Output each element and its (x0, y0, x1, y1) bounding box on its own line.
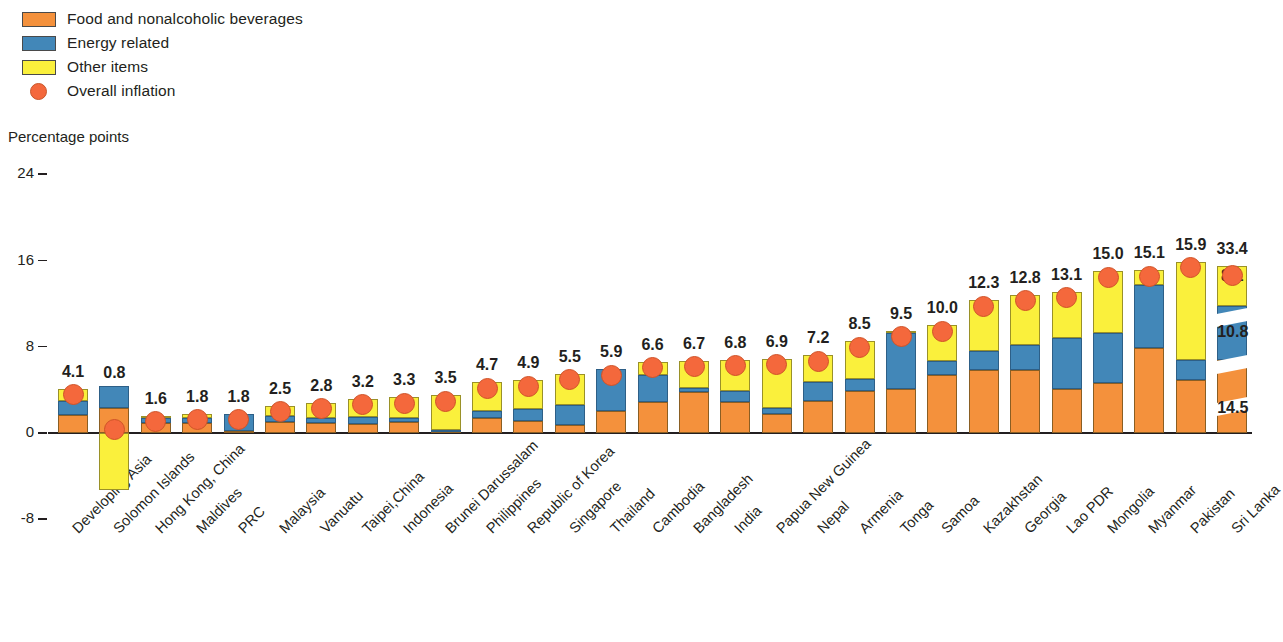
overall-inflation-marker[interactable] (311, 398, 332, 419)
bar-value-label: 33.4 (1204, 240, 1260, 258)
bar-segment-food[interactable] (224, 431, 254, 433)
bar-segment-energy[interactable] (472, 411, 502, 417)
bar-group[interactable]: 15.0 (1093, 0, 1123, 642)
bar-segment-food[interactable] (472, 418, 502, 433)
bar-group[interactable]: 3.5 (431, 0, 461, 642)
bar-group[interactable]: 4.9 (513, 0, 543, 642)
overall-inflation-marker[interactable] (849, 337, 870, 358)
bar-segment-energy[interactable] (348, 417, 378, 425)
overall-inflation-marker[interactable] (187, 409, 208, 430)
bar-segment-food[interactable] (1176, 380, 1206, 433)
bar-segment-food[interactable] (348, 424, 378, 433)
bar-segment-energy[interactable] (1176, 360, 1206, 380)
bar-group[interactable]: 3.3 (389, 0, 419, 642)
bar-segment-food[interactable] (265, 422, 295, 433)
bar-group[interactable]: 15.1 (1134, 0, 1164, 642)
overall-inflation-marker[interactable] (394, 393, 415, 414)
bar-segment-food[interactable] (638, 402, 668, 433)
bar-segment-energy[interactable] (513, 409, 543, 421)
overall-inflation-marker[interactable] (1098, 267, 1119, 288)
y-axis-tick-label: -8 (0, 509, 34, 526)
bar-group[interactable]: 9.5 (886, 0, 916, 642)
bar-group[interactable]: 1.8 (224, 0, 254, 642)
bar-segment-food[interactable] (1134, 348, 1164, 433)
bar-group[interactable]: 5.5 (555, 0, 585, 642)
bar-segment-food[interactable] (306, 423, 336, 433)
bar-group[interactable]: 2.5 (265, 0, 295, 642)
bar-segment-food[interactable] (927, 375, 957, 433)
overall-inflation-marker[interactable] (270, 401, 291, 422)
bar-segment-energy[interactable] (1093, 333, 1123, 384)
overall-inflation-marker[interactable] (518, 376, 539, 397)
y-axis-tick-mark (38, 518, 47, 520)
bar-segment-energy[interactable] (1134, 285, 1164, 348)
bar-group[interactable]: 6.9 (762, 0, 792, 642)
bar-group[interactable]: 4.1 (58, 0, 88, 642)
overall-inflation-marker[interactable] (725, 355, 746, 376)
overall-inflation-marker[interactable] (477, 378, 498, 399)
bar-segment-energy[interactable] (720, 391, 750, 402)
bar-segment-food[interactable] (969, 370, 999, 433)
bar-segment-energy[interactable] (845, 379, 875, 391)
bar-segment-food[interactable] (1052, 389, 1082, 433)
segment-label-food: 14.5 (1217, 399, 1247, 417)
bar-segment-food[interactable] (513, 421, 543, 433)
overall-inflation-marker[interactable] (1222, 265, 1243, 286)
bar-segment-food[interactable] (596, 411, 626, 433)
bar-group[interactable]: 6.7 (679, 0, 709, 642)
bar-segment-food[interactable] (720, 402, 750, 433)
overall-inflation-marker[interactable] (808, 351, 829, 372)
bar-segment-food[interactable] (845, 391, 875, 433)
bar-group[interactable]: 5.9 (596, 0, 626, 642)
bar-segment-energy[interactable] (762, 408, 792, 413)
bar-segment-food[interactable] (679, 392, 709, 433)
bar-segment-food[interactable] (886, 389, 916, 433)
bar-segment-food[interactable] (389, 422, 419, 433)
bar-group[interactable]: 3.2 (348, 0, 378, 642)
overall-inflation-marker[interactable] (932, 321, 953, 342)
bar-segment-food[interactable] (1010, 370, 1040, 433)
bar-group[interactable]: 4.7 (472, 0, 502, 642)
bar-group[interactable]: 2.8 (306, 0, 336, 642)
bar-segment-energy[interactable] (927, 361, 957, 375)
bar-segment-energy[interactable] (679, 388, 709, 392)
bar-segment-food[interactable] (58, 415, 88, 433)
bar-segment-food[interactable] (1093, 383, 1123, 433)
overall-inflation-marker[interactable] (601, 365, 622, 386)
bar-segment-energy[interactable] (638, 375, 668, 402)
overall-inflation-marker[interactable] (891, 326, 912, 347)
overall-inflation-marker[interactable] (228, 409, 249, 430)
bar-group[interactable]: 15.9 (1176, 0, 1206, 642)
overall-inflation-marker[interactable] (104, 419, 125, 440)
bar-segment-energy[interactable] (969, 351, 999, 370)
bar-group[interactable]: 0.8 (99, 0, 129, 642)
bar-group[interactable]: 10.0 (927, 0, 957, 642)
overall-inflation-marker[interactable] (435, 391, 456, 412)
overall-inflation-marker[interactable] (1139, 266, 1160, 287)
bar-group[interactable]: 13.1 (1052, 0, 1082, 642)
bar-group[interactable]: 6.8 (720, 0, 750, 642)
bar-segment-energy[interactable] (389, 418, 419, 422)
bar-segment-food[interactable] (762, 414, 792, 433)
bar-group[interactable]: 1.6 (141, 0, 171, 642)
bar-segment-energy[interactable] (99, 386, 129, 409)
bar-group[interactable]: 12.3 (969, 0, 999, 642)
bar-group[interactable]: 8.110.814.533.4 (1217, 0, 1247, 642)
overall-inflation-marker[interactable] (1015, 290, 1036, 311)
bar-group[interactable]: 1.8 (182, 0, 212, 642)
bar-group[interactable]: 7.2 (803, 0, 833, 642)
overall-inflation-marker[interactable] (684, 356, 705, 377)
bar-segment-food[interactable] (803, 401, 833, 433)
bar-group[interactable]: 12.8 (1010, 0, 1040, 642)
overall-inflation-marker[interactable] (63, 384, 84, 405)
overall-inflation-marker[interactable] (973, 296, 994, 317)
bar-segment-other-negative[interactable] (99, 433, 129, 490)
bar-segment-energy[interactable] (1052, 338, 1082, 389)
bar-segment-food[interactable] (555, 425, 585, 433)
bar-group[interactable]: 6.6 (638, 0, 668, 642)
bar-group[interactable]: 8.5 (845, 0, 875, 642)
bar-segment-energy[interactable] (1010, 345, 1040, 371)
bar-segment-energy[interactable] (431, 430, 461, 432)
bar-segment-energy[interactable] (555, 405, 585, 425)
bar-segment-energy[interactable] (803, 382, 833, 400)
